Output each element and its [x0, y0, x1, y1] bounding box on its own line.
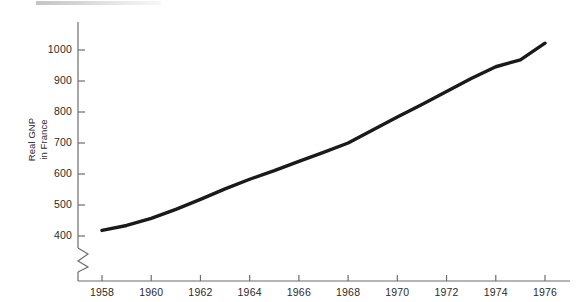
y-axis-break-zigzag	[78, 248, 88, 272]
y-tick-label: 900	[18, 74, 72, 86]
chart-figure: Real GNP in France 400500600700800900100…	[0, 0, 582, 302]
chart-plot-svg	[0, 0, 582, 302]
y-tick-label: 700	[18, 136, 72, 148]
y-tick-label: 1000	[18, 43, 72, 55]
y-tick-label: 500	[18, 198, 72, 210]
x-tick-label: 1976	[515, 286, 575, 298]
y-tick-label: 800	[18, 105, 72, 117]
y-tick-label: 400	[18, 229, 72, 241]
y-tick-marks	[78, 50, 85, 236]
x-tick-marks	[102, 275, 545, 281]
y-tick-label: 600	[18, 167, 72, 179]
data-series-line	[102, 43, 545, 230]
